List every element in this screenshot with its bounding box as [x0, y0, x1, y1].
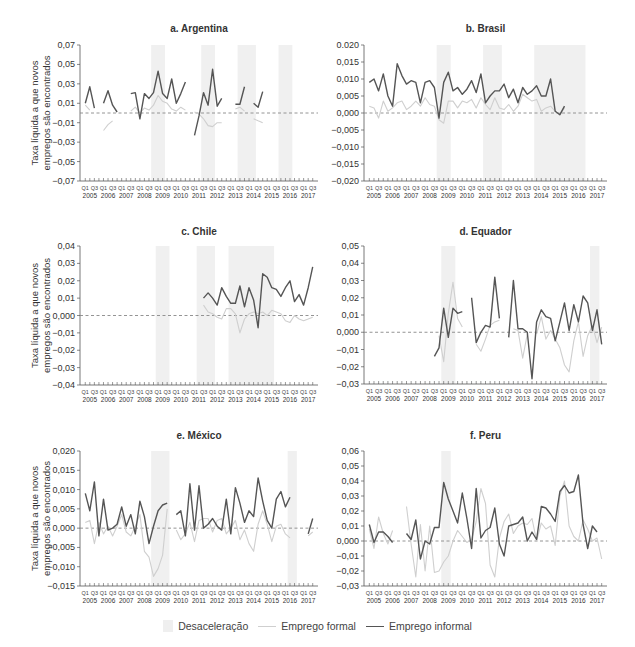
- x-tick-year: 2006: [385, 597, 400, 604]
- chart-title: b. Brasil: [466, 23, 506, 34]
- x-tick-year: 2014: [246, 597, 261, 604]
- x-tick-quarter: Q3: [505, 185, 512, 191]
- x-tick-quarter: Q1: [118, 590, 125, 596]
- x-tick-year: 2015: [553, 597, 568, 604]
- y-tick-label: 0,02: [341, 506, 359, 516]
- y-tick-label: 0,03: [341, 491, 359, 501]
- x-tick-year: 2009: [155, 396, 170, 403]
- y-tick-label: −0,005: [331, 125, 359, 135]
- series-informal-line: [369, 475, 597, 559]
- y-tick-label: −0,03: [52, 363, 75, 373]
- y-tick-label: −0,02: [52, 345, 75, 355]
- x-tick-quarter: Q3: [254, 590, 261, 596]
- x-tick-quarter: Q1: [440, 388, 447, 394]
- y-tick-label: −0,02: [336, 362, 359, 372]
- x-tick-quarter: Q3: [449, 590, 456, 596]
- y-tick-label: 0,01: [57, 293, 75, 303]
- chart-panel-1: a. Argentina0,070,050,030,01−0,01−0,03−0…: [29, 23, 318, 199]
- x-tick-year: 2008: [423, 597, 438, 604]
- x-tick-year: 2006: [101, 192, 116, 199]
- x-tick-year: 2016: [283, 396, 298, 403]
- x-tick-quarter: Q1: [533, 590, 540, 596]
- x-tick-quarter: Q3: [375, 590, 382, 596]
- x-tick-quarter: Q3: [431, 590, 438, 596]
- legend-label-informal: Emprego informal: [389, 620, 472, 632]
- x-tick-quarter: Q1: [589, 388, 596, 394]
- x-tick-quarter: Q3: [91, 590, 98, 596]
- x-tick-quarter: Q3: [412, 185, 419, 191]
- x-tick-year: 2016: [571, 192, 586, 199]
- x-tick-quarter: Q3: [524, 590, 531, 596]
- x-tick-quarter: Q3: [394, 388, 401, 394]
- y-tick-label: −0,010: [331, 142, 359, 152]
- series-formal-line: [439, 282, 602, 372]
- x-tick-year: 2007: [119, 396, 134, 403]
- y-tick-label: −0,03: [52, 137, 75, 147]
- x-tick-quarter: Q1: [209, 185, 216, 191]
- x-tick-quarter: Q1: [477, 388, 484, 394]
- x-tick-quarter: Q3: [524, 185, 531, 191]
- y-axis-label: Taxa líquida a que novos: [29, 263, 40, 368]
- chart-panel-5: e. México0,0200,0150,0100,0050,000−0,005…: [29, 430, 318, 604]
- x-tick-year: 2007: [404, 192, 419, 199]
- y-axis-label: empregos são encontrados: [41, 461, 52, 576]
- x-tick-year: 2010: [460, 192, 475, 199]
- x-tick-year: 2017: [301, 597, 316, 604]
- x-tick-quarter: Q1: [118, 389, 125, 395]
- x-tick-year: 2017: [301, 396, 316, 403]
- x-tick-year: 2007: [404, 395, 419, 402]
- x-tick-year: 2016: [571, 395, 586, 402]
- x-tick-year: 2016: [283, 192, 298, 199]
- x-tick-year: 2008: [137, 597, 152, 604]
- x-tick-year: 2016: [571, 597, 586, 604]
- recession-band: [441, 451, 450, 586]
- y-tick-label: 0,03: [57, 79, 75, 89]
- x-tick-quarter: Q3: [218, 185, 225, 191]
- x-tick-quarter: Q3: [218, 590, 225, 596]
- x-tick-quarter: Q3: [561, 185, 568, 191]
- y-tick-label: 0,01: [57, 98, 75, 108]
- y-tick-label: −0,01: [52, 328, 75, 338]
- x-tick-quarter: Q1: [477, 590, 484, 596]
- x-tick-quarter: Q1: [136, 590, 143, 596]
- x-tick-quarter: Q3: [598, 388, 605, 394]
- x-tick-year: 2010: [174, 597, 189, 604]
- x-tick-quarter: Q1: [403, 590, 410, 596]
- x-tick-year: 2011: [192, 192, 206, 199]
- x-tick-quarter: Q1: [403, 185, 410, 191]
- y-tick-label: 0,010: [52, 485, 75, 495]
- y-tick-label: 0,01: [341, 521, 359, 531]
- y-tick-label: −0,05: [52, 157, 75, 167]
- x-tick-year: 2015: [265, 192, 280, 199]
- x-tick-quarter: Q1: [533, 388, 540, 394]
- series-formal-line: [369, 481, 601, 577]
- chart-title: d. Equador: [459, 226, 511, 237]
- x-tick-quarter: Q3: [273, 185, 280, 191]
- x-tick-year: 2005: [367, 192, 382, 199]
- x-tick-quarter: Q1: [173, 185, 180, 191]
- y-tick-label: 0,005: [52, 504, 75, 514]
- x-tick-quarter: Q3: [598, 185, 605, 191]
- x-tick-year: 2013: [515, 597, 530, 604]
- x-tick-year: 2013: [228, 192, 243, 199]
- x-tick-quarter: Q3: [163, 590, 170, 596]
- x-tick-quarter: Q3: [127, 389, 134, 395]
- y-tick-label: 0,05: [341, 241, 359, 251]
- x-tick-quarter: Q1: [209, 590, 216, 596]
- x-tick-quarter: Q3: [273, 389, 280, 395]
- x-tick-year: 2011: [479, 395, 493, 402]
- x-tick-quarter: Q3: [127, 185, 134, 191]
- x-tick-year: 2015: [553, 192, 568, 199]
- x-tick-year: 2014: [534, 597, 549, 604]
- y-tick-label: 0,01: [341, 310, 359, 320]
- y-tick-label: −0,01: [336, 551, 359, 561]
- x-tick-quarter: Q1: [118, 185, 125, 191]
- series-informal-line: [85, 478, 312, 544]
- chart-panel-3: c. Chile0,040,030,020,010,000−0,01−0,02−…: [29, 226, 318, 403]
- x-tick-quarter: Q3: [431, 185, 438, 191]
- chart-title: e. México: [176, 430, 221, 441]
- x-tick-quarter: Q3: [127, 590, 134, 596]
- y-tick-label: −0,015: [331, 159, 359, 169]
- x-tick-year: 2005: [83, 597, 98, 604]
- x-tick-quarter: Q3: [542, 185, 549, 191]
